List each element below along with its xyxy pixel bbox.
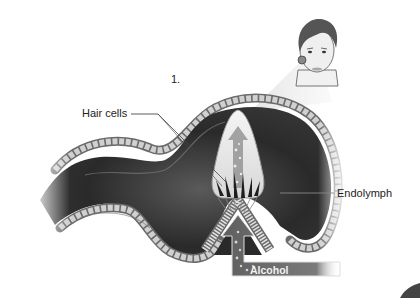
alcohol-label: Alcohol <box>250 264 289 276</box>
endolymph-label: Endolymph <box>337 188 392 199</box>
step-number: 1. <box>171 73 180 85</box>
person-head-illustration <box>296 19 338 86</box>
inner-ear-diagram <box>0 0 420 298</box>
corner-shape <box>400 283 420 298</box>
hair-cells-label: Hair cells <box>82 108 127 119</box>
ear-highlight <box>298 56 306 64</box>
